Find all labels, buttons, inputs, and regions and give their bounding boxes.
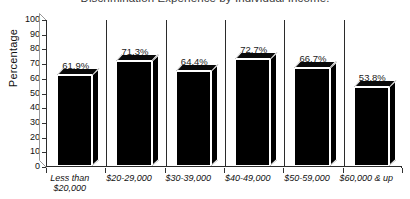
bar[interactable] xyxy=(235,59,271,166)
bar-side-face xyxy=(211,65,218,166)
y-tick-label: 60 xyxy=(12,74,40,83)
x-tick-mark xyxy=(402,168,403,173)
category-separator xyxy=(284,20,285,167)
bar-front-face xyxy=(176,71,212,166)
y-tick-label: 90 xyxy=(12,30,40,39)
chart-title: Discrimination Experience by Individual … xyxy=(0,0,410,4)
x-tick-mark xyxy=(105,168,106,173)
bar-value-label: 64.4% xyxy=(165,56,224,67)
y-tick-label: 50 xyxy=(12,89,40,98)
x-tick-mark xyxy=(46,168,47,173)
x-tick-mark xyxy=(283,168,284,173)
y-tick-label: 0 xyxy=(12,162,40,171)
y-tick-label: 40 xyxy=(12,103,40,112)
x-tick-mark xyxy=(165,168,166,173)
bar-front-face xyxy=(116,61,152,166)
bar[interactable] xyxy=(176,71,212,166)
y-tick-label: 70 xyxy=(12,59,40,68)
bar-value-label: 61.9% xyxy=(46,60,105,71)
bar[interactable] xyxy=(57,75,93,166)
bar-front-face xyxy=(57,75,93,166)
bar[interactable] xyxy=(116,61,152,166)
bar-front-face xyxy=(354,87,390,166)
category-separator xyxy=(225,20,226,167)
bar-value-label: 53.8% xyxy=(343,72,402,83)
bar-value-label: 72.7% xyxy=(224,44,283,55)
plot-area xyxy=(46,20,402,167)
x-tick-mark xyxy=(343,168,344,173)
bar[interactable] xyxy=(294,68,330,166)
x-tick-label: $60,000 & up xyxy=(337,173,396,183)
x-tick-label: $30-39,000 xyxy=(159,173,218,183)
x-tick-label: $40-49,000 xyxy=(218,173,277,183)
x-tick-label: Less than $20,000 xyxy=(40,173,99,193)
bar[interactable] xyxy=(354,87,390,166)
bar-side-face xyxy=(330,62,337,166)
y-tick-label: 80 xyxy=(12,44,40,53)
bar-front-face xyxy=(294,68,330,166)
bar-front-face xyxy=(235,59,271,166)
bar-value-label: 66.7% xyxy=(283,53,342,64)
y-tick-label: 100 xyxy=(12,15,40,24)
category-separator xyxy=(166,20,167,167)
bar-value-label: 71.3% xyxy=(105,46,164,57)
bar-side-face xyxy=(270,53,277,166)
x-tick-label: $50-59,000 xyxy=(277,173,336,183)
bar-chart: Discrimination Experience by Individual … xyxy=(0,0,410,199)
bar-side-face xyxy=(152,55,159,166)
bar-side-face xyxy=(92,69,99,166)
bar-side-face xyxy=(389,81,396,166)
category-separator xyxy=(344,20,345,167)
y-tick-label: 30 xyxy=(12,118,40,127)
category-separator xyxy=(106,20,107,167)
y-tick-label: 10 xyxy=(12,147,40,156)
x-tick-mark xyxy=(224,168,225,173)
y-tick-label: 20 xyxy=(12,133,40,142)
x-tick-label: $20-29,000 xyxy=(99,173,158,183)
